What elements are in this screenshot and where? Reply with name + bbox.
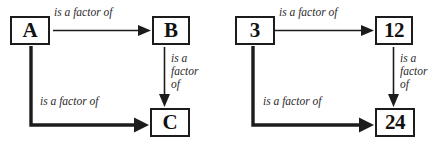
edge-source-to-middle — [275, 25, 374, 36]
edge-label-line-2: factor — [400, 65, 435, 78]
node-middle-concrete[interactable]: 12 — [375, 16, 413, 45]
edge-label-source-to-middle: is a factor of — [54, 6, 112, 19]
edge-source-to-destination — [253, 46, 374, 133]
edge-label-source-to-destination: is a factor of — [263, 95, 321, 108]
edge-label-line-3: of — [171, 78, 211, 91]
node-destination-abstract[interactable]: C — [150, 108, 190, 137]
node-destination-label: C — [162, 112, 177, 134]
edge-middle-to-destination — [388, 47, 399, 107]
edge-label-source-to-middle: is a factor of — [279, 6, 337, 19]
edge-source-to-destination — [31, 46, 149, 133]
diagram-concrete: 3 12 24 is a factor of is a factor of is… — [217, 0, 435, 146]
edge-label-line-3: of — [400, 78, 435, 91]
diagram-abstract: A B C is a factor of is a factor of is a… — [0, 0, 218, 146]
edge-label-line-1: is a — [171, 52, 211, 65]
node-source-concrete[interactable]: 3 — [235, 16, 275, 45]
node-source-label: A — [22, 20, 37, 42]
node-destination-concrete[interactable]: 24 — [375, 108, 415, 137]
edge-label-line-1: is a — [400, 52, 435, 65]
node-destination-label: 24 — [385, 112, 405, 134]
node-middle-label: 12 — [384, 20, 404, 42]
node-middle-abstract[interactable]: B — [152, 16, 190, 45]
edge-source-to-middle — [53, 25, 151, 36]
figure-canvas: A B C is a factor of is a factor of is a… — [0, 0, 435, 146]
edge-label-middle-to-destination: is a factor of — [400, 52, 435, 91]
edge-label-line-2: factor — [171, 65, 211, 78]
node-source-abstract[interactable]: A — [10, 16, 50, 45]
edge-label-source-to-destination: is a factor of — [40, 95, 98, 108]
node-source-label: 3 — [250, 20, 261, 42]
edge-middle-to-destination — [159, 47, 170, 107]
node-middle-label: B — [164, 20, 178, 42]
edge-label-middle-to-destination: is a factor of — [171, 52, 211, 91]
